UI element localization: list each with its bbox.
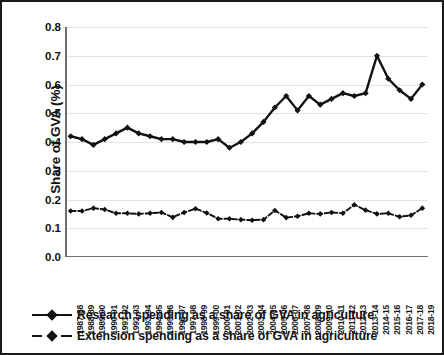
y-tick-label: 0.1	[15, 222, 61, 234]
data-point-marker	[147, 211, 153, 217]
legend-marker-icon	[46, 330, 57, 341]
data-point-marker	[385, 211, 391, 217]
series-line	[71, 56, 423, 148]
data-point-marker	[159, 210, 165, 216]
data-point-marker	[136, 211, 142, 217]
plot-area: 0.00.10.20.30.40.50.60.70.8	[65, 27, 428, 257]
data-point-marker	[238, 217, 244, 223]
data-point-marker	[363, 90, 369, 96]
data-point-marker	[329, 210, 335, 216]
data-point-marker	[147, 133, 153, 139]
data-point-marker	[374, 211, 380, 217]
data-point-marker	[204, 139, 210, 145]
data-point-marker	[68, 133, 74, 139]
series-layer	[65, 27, 428, 257]
y-tick-label: 0.2	[15, 194, 61, 206]
data-point-marker	[170, 136, 176, 142]
data-point-marker	[351, 93, 357, 99]
data-point-marker	[317, 211, 323, 217]
series-2	[68, 202, 425, 223]
data-point-marker	[125, 211, 131, 217]
data-point-marker	[192, 139, 198, 145]
legend-marker-icon	[46, 309, 57, 320]
y-tick-label: 0.4	[15, 136, 61, 148]
data-point-marker	[397, 214, 403, 220]
data-point-marker	[181, 210, 187, 216]
legend-item[interactable]: Research spending as a share of GVA in a…	[32, 304, 442, 325]
data-point-marker	[79, 208, 85, 214]
data-point-marker	[158, 136, 164, 142]
y-tick-label: 0.0	[15, 251, 61, 263]
data-point-marker	[249, 217, 255, 223]
data-point-marker	[181, 139, 187, 145]
legend-label: Research spending as a share of GVA in a…	[77, 308, 374, 322]
chart-legend: Research spending as a share of GVA in a…	[2, 304, 442, 346]
y-tick-label: 0.5	[15, 107, 61, 119]
data-point-marker	[170, 215, 176, 221]
y-axis-ticks: 0.00.10.20.30.40.50.60.70.8	[15, 27, 61, 257]
chart-container: Share of GVA (%) 0.00.10.20.30.40.50.60.…	[0, 0, 444, 355]
y-tick-label: 0.8	[15, 21, 61, 33]
legend-swatch-solid-icon	[32, 309, 72, 321]
x-axis-ticks: 1987-881988-891989-901990-911991-921992-…	[65, 259, 428, 307]
data-point-marker	[227, 216, 233, 222]
legend-swatch-dashed-icon	[32, 330, 72, 342]
data-point-marker	[102, 207, 108, 213]
legend-label: Extension spending as a share of GVA in …	[77, 329, 377, 343]
data-point-marker	[193, 206, 199, 212]
y-tick-label: 0.6	[15, 79, 61, 91]
data-point-marker	[306, 211, 312, 217]
data-point-marker	[204, 210, 210, 216]
y-tick-label: 0.3	[15, 165, 61, 177]
legend-item[interactable]: Extension spending as a share of GVA in …	[32, 325, 442, 346]
series-1	[68, 53, 426, 151]
data-point-marker	[68, 208, 74, 214]
series-line	[71, 205, 423, 221]
data-point-marker	[215, 216, 221, 222]
data-point-marker	[113, 211, 119, 217]
y-tick-label: 0.7	[15, 50, 61, 62]
data-point-marker	[91, 205, 97, 211]
data-point-marker	[295, 213, 301, 219]
